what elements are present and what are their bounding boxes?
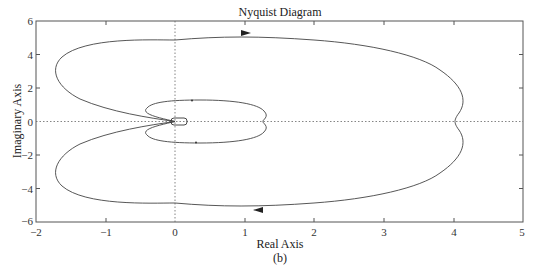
svg-text:−6: −6 [21, 215, 33, 227]
svg-text:3: 3 [381, 226, 387, 238]
arrow-right-icon [241, 30, 251, 36]
svg-text:−1: −1 [100, 226, 112, 238]
arrow-left-icon [253, 207, 263, 213]
svg-text:5: 5 [519, 226, 525, 238]
svg-text:4: 4 [451, 226, 457, 238]
inner-arrow-bottom-icon [195, 142, 197, 144]
y-axis-label: Imaginary Axis [10, 84, 24, 159]
inner-nyquist-curve [146, 100, 267, 143]
svg-text:0: 0 [172, 226, 178, 238]
chart-title: Nyquist Diagram [239, 5, 323, 19]
nyquist-chart: Nyquist Diagram −2 −1 0 1 2 3 4 5 6 4 2 … [0, 0, 537, 271]
svg-text:2: 2 [311, 226, 317, 238]
svg-text:−2: −2 [30, 226, 42, 238]
svg-text:6: 6 [28, 15, 34, 27]
x-ticks [106, 21, 454, 222]
svg-text:1: 1 [242, 226, 248, 238]
x-axis-label: Real Axis [257, 237, 304, 251]
inner-arrow-top-icon [191, 100, 193, 102]
svg-text:4: 4 [28, 49, 34, 61]
figure-caption: (b) [273, 251, 287, 265]
svg-text:0: 0 [28, 116, 34, 128]
svg-text:−4: −4 [21, 183, 33, 195]
svg-text:2: 2 [28, 82, 34, 94]
